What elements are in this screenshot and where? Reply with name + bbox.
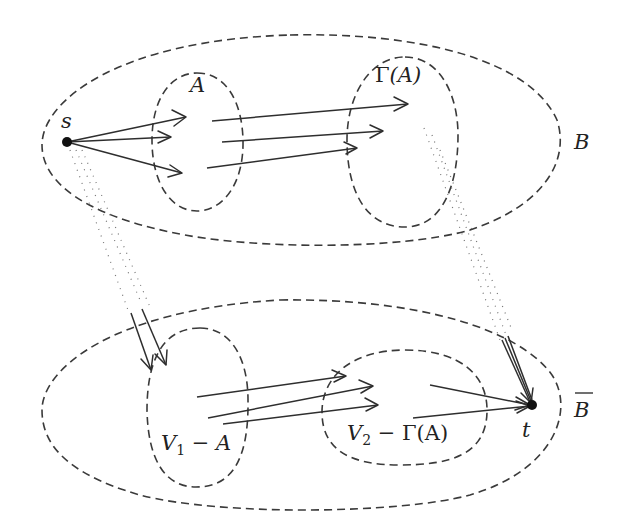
edges-into-t-from-above xyxy=(502,336,533,403)
label-gamma-A-gamma: Γ xyxy=(375,63,390,87)
region-V2-minus-gamma-A-boundary xyxy=(322,350,487,465)
label-s: s xyxy=(61,109,72,133)
label-B: B xyxy=(573,130,589,154)
label-A: A xyxy=(188,73,205,97)
flow-cut-diagram: s t A Γ(A) B B V1 − A V2 − Γ(A) xyxy=(0,0,626,532)
node-s xyxy=(62,137,72,147)
region-V1-minus-A-boundary xyxy=(147,328,248,487)
label-V2-sub: 2 xyxy=(362,432,371,448)
label-V1-sub: 1 xyxy=(176,442,185,458)
node-t xyxy=(527,400,537,410)
edges-into-V1-minus-A xyxy=(131,309,167,370)
label-gamma-A: Γ(A) xyxy=(375,63,421,87)
label-t: t xyxy=(522,418,531,442)
dotted-path-s-to-V1 xyxy=(70,150,150,310)
label-V1-minus-A: V1 − A xyxy=(161,431,231,458)
label-B-bar: B xyxy=(573,393,593,422)
edges-s-to-A xyxy=(67,110,186,177)
dotted-path-gamma-A-to-t xyxy=(424,128,512,340)
label-gamma-A-rest: (A) xyxy=(390,63,422,87)
edges-V2-to-t xyxy=(413,385,530,418)
edges-V1-to-V2 xyxy=(197,370,378,424)
label-V1-rest: − A xyxy=(185,431,231,455)
svg-text:B: B xyxy=(573,398,589,422)
label-V2-rest: − Γ(A) xyxy=(371,421,448,445)
label-V2-minus-gamma-A: V2 − Γ(A) xyxy=(347,421,448,448)
region-B-bar-boundary xyxy=(42,300,561,510)
